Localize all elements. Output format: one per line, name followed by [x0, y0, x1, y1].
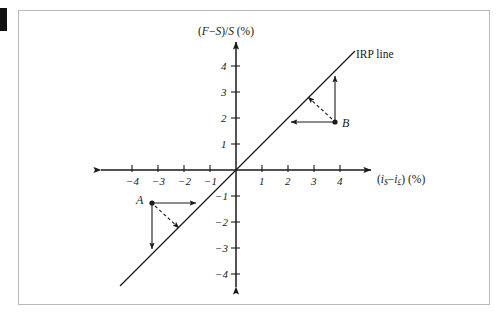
axes-group: [101, 42, 371, 287]
y-axis-var-s2: S: [228, 25, 234, 37]
ytick-label-4: 4: [221, 61, 227, 72]
y-axis-title: (F−S)/S (%): [198, 26, 254, 38]
xtick-label--4: −4: [126, 176, 139, 187]
y-axis-var-s1: S: [215, 25, 221, 37]
irp-line-label: IRP line: [356, 49, 394, 61]
xtick-label-4: 4: [337, 176, 343, 187]
annotation-b-group: [291, 76, 338, 125]
point-a-marker: [149, 200, 154, 205]
figure-container: (F−S)/S (%) (i$−i£) (%) IRP line A B −4 …: [0, 0, 504, 322]
xtick-label-3: 3: [311, 176, 317, 187]
xtick-label-2: 2: [285, 176, 291, 187]
xtick-label-1: 1: [259, 176, 265, 187]
xtick-label--3: −3: [152, 176, 165, 187]
x-axis-title-text: (i$−i£) (%): [377, 173, 425, 185]
point-a-label: A: [136, 194, 143, 206]
irp-chart-svg: [0, 0, 504, 322]
annotation-a-group: [149, 200, 196, 249]
x-axis-title: (i$−i£) (%): [377, 174, 425, 187]
xtick-label--2: −2: [178, 176, 191, 187]
ytick-label--4: −4: [215, 269, 228, 280]
x-axis-unit: (%): [408, 173, 425, 185]
xtick-label--1: −1: [204, 176, 217, 187]
ytick-label--1: −1: [215, 191, 228, 202]
ytick-label-1: 1: [221, 139, 227, 150]
arrow-a-diagonal-to-line: [155, 206, 179, 228]
ytick-label-2: 2: [221, 113, 227, 124]
y-axis-title-text: (F−S)/S (%): [198, 25, 254, 37]
y-axis-var-f: F: [202, 25, 209, 37]
arrow-b-diagonal-to-line: [308, 97, 332, 119]
point-b-label: B: [342, 117, 349, 129]
y-axis-unit: (%): [237, 25, 254, 37]
ytick-label--2: −2: [215, 217, 228, 228]
irp-line: [120, 51, 355, 286]
ytick-label-3: 3: [221, 87, 227, 98]
x-axis-sub-pound: £: [398, 178, 402, 187]
point-b-marker: [332, 119, 337, 124]
ytick-label--3: −3: [215, 243, 228, 254]
